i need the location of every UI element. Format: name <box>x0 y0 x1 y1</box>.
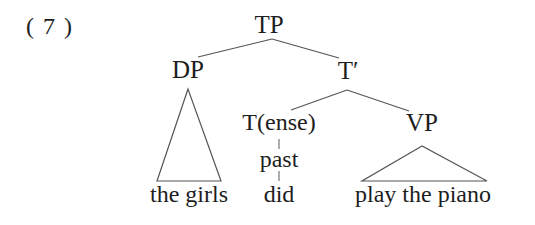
branch-tp-tbar <box>272 39 339 58</box>
dp-triangle <box>157 89 221 181</box>
feature-label-past: past <box>260 147 299 171</box>
node-label-t-bar: T′ <box>338 58 359 83</box>
terminal-predicate: play the piano <box>355 182 491 206</box>
terminal-auxiliary: did <box>264 182 295 206</box>
vp-triangle <box>362 146 487 181</box>
branch-tbar-tense <box>291 90 347 110</box>
node-label-vp: VP <box>406 110 438 135</box>
terminal-subject: the girls <box>150 182 228 206</box>
node-label-dp: DP <box>172 57 204 82</box>
syntax-tree-figure: ( 7 ) TP DP T′ T(ense) VP past the girls… <box>0 0 535 225</box>
node-label-tense: T(ense) <box>242 110 315 134</box>
branch-tp-dp <box>198 39 272 57</box>
node-label-tp: TP <box>254 12 283 37</box>
branch-tbar-vp <box>347 90 409 111</box>
